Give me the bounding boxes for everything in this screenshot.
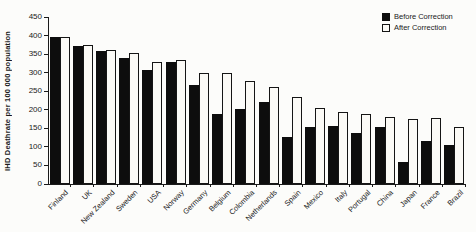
x-tick-mark — [93, 184, 94, 187]
bar-after-correction-france — [431, 118, 441, 184]
bar-group-japan: Japan — [396, 17, 419, 184]
y-tick-250: 250 — [29, 87, 48, 95]
bar-before-correction-mexico — [305, 127, 315, 184]
x-tick-mark — [302, 184, 303, 187]
bar-before-correction-usa — [142, 70, 152, 184]
bar-before-correction-netherlands — [259, 102, 269, 184]
bar-group-finland: Finland — [48, 17, 71, 184]
bar-group-netherlands: Netherlands — [257, 17, 280, 184]
y-tick-label-150: 150 — [29, 124, 44, 132]
x-label-germany: Germany — [181, 188, 209, 216]
y-tick-label-300: 300 — [29, 69, 44, 77]
bar-before-correction-brazil — [444, 145, 454, 184]
y-tick-label-450: 450 — [29, 13, 44, 21]
bar-before-correction-norway — [166, 62, 176, 184]
bar-group-portugal: Portugal — [350, 17, 373, 184]
x-label-spain: Spain — [282, 188, 302, 208]
x-tick-mark — [210, 184, 211, 187]
legend-label-after-correction: After Correction — [394, 24, 447, 32]
legend-item-after-correction: After Correction — [382, 24, 453, 32]
y-tick-400: 400 — [29, 32, 48, 40]
bar-group-china: China — [373, 17, 396, 184]
y-tick-150: 150 — [29, 124, 48, 132]
bar-group-new-zealand: New Zealand — [94, 17, 117, 184]
y-tick-200: 200 — [29, 106, 48, 114]
bar-after-correction-japan — [408, 119, 418, 184]
x-tick-mark — [465, 184, 466, 187]
bar-before-correction-japan — [398, 162, 408, 184]
bar-before-correction-spain — [282, 137, 292, 185]
bar-group-mexico: Mexico — [303, 17, 326, 184]
bar-after-correction-usa — [152, 62, 162, 184]
y-tick-50: 50 — [33, 161, 48, 169]
bar-after-correction-portugal — [361, 114, 371, 184]
bar-after-correction-colombia — [245, 81, 255, 184]
legend: Before CorrectionAfter Correction — [382, 13, 453, 33]
x-label-italy: Italy — [333, 188, 349, 204]
bar-before-correction-portugal — [351, 133, 361, 184]
bar-after-correction-norway — [176, 60, 186, 184]
bar-after-correction-brazil — [454, 127, 464, 184]
ihd-deathrate-bar-chart: IHD Deathrate per 100 000 population 050… — [0, 0, 476, 232]
x-tick-mark — [70, 184, 71, 187]
x-tick-mark — [140, 184, 141, 187]
x-tick-mark — [117, 184, 118, 187]
bar-before-correction-germany — [189, 85, 199, 184]
bar-after-correction-uk — [83, 45, 93, 184]
x-label-japan: Japan — [398, 188, 419, 209]
x-label-brazil: Brazil — [445, 188, 465, 208]
bar-after-correction-sweden — [129, 53, 139, 184]
x-label-china: China — [375, 188, 395, 208]
legend-item-before-correction: Before Correction — [382, 13, 453, 21]
x-tick-mark — [372, 184, 373, 187]
x-tick-mark — [279, 184, 280, 187]
x-tick-mark — [442, 184, 443, 187]
bar-before-correction-new-zealand — [96, 51, 106, 184]
y-tick-label-200: 200 — [29, 106, 44, 114]
bar-after-correction-new-zealand — [106, 50, 116, 184]
y-tick-0: 0 — [38, 180, 48, 188]
bar-before-correction-uk — [73, 46, 83, 184]
x-tick-mark — [163, 184, 164, 187]
bar-after-correction-italy — [338, 112, 348, 184]
y-tick-350: 350 — [29, 50, 48, 58]
bar-after-correction-mexico — [315, 108, 325, 184]
x-label-uk: UK — [80, 188, 94, 202]
y-tick-300: 300 — [29, 69, 48, 77]
bar-before-correction-france — [421, 141, 431, 184]
x-tick-mark — [395, 184, 396, 187]
y-axis: 050100150200250300350400450 — [0, 17, 49, 184]
legend-swatch-before-correction — [382, 13, 390, 21]
x-label-usa: USA — [146, 188, 163, 205]
x-tick-mark — [233, 184, 234, 187]
x-label-portugal: Portugal — [346, 188, 372, 214]
bar-group-norway: Norway — [164, 17, 187, 184]
y-tick-label-400: 400 — [29, 32, 44, 40]
bar-before-correction-china — [375, 127, 385, 184]
bar-group-uk: UK — [71, 17, 94, 184]
bar-before-correction-finland — [50, 37, 60, 184]
plot-area: FinlandUKNew ZealandSwedenUSANorwayGerma… — [48, 17, 466, 185]
bar-after-correction-china — [385, 117, 395, 184]
y-tick-label-100: 100 — [29, 143, 44, 151]
bar-before-correction-colombia — [235, 109, 245, 184]
bar-group-spain: Spain — [280, 17, 303, 184]
bar-group-brazil: Brazil — [443, 17, 466, 184]
bar-before-correction-italy — [328, 126, 338, 184]
bar-after-correction-netherlands — [269, 87, 279, 184]
y-tick-450: 450 — [29, 13, 48, 21]
bar-before-correction-belgium — [212, 114, 222, 184]
bar-after-correction-belgium — [222, 73, 232, 184]
y-tick-label-250: 250 — [29, 87, 44, 95]
bar-group-france: France — [420, 17, 443, 184]
y-tick-label-350: 350 — [29, 50, 44, 58]
bar-after-correction-spain — [292, 97, 302, 184]
bar-before-correction-sweden — [119, 58, 129, 184]
x-label-france: France — [419, 188, 442, 211]
bar-group-usa: USA — [141, 17, 164, 184]
x-label-sweden: Sweden — [114, 188, 140, 214]
bar-group-belgium: Belgium — [211, 17, 234, 184]
x-tick-mark — [256, 184, 257, 187]
x-label-mexico: Mexico — [302, 188, 325, 211]
bar-after-correction-finland — [60, 37, 70, 184]
